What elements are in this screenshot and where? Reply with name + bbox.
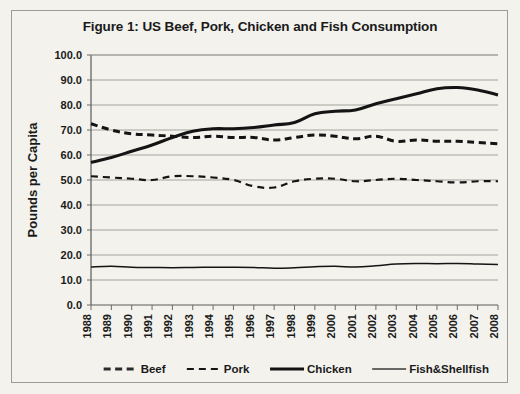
series-line-pork	[91, 176, 498, 188]
x-tick-label: 1996	[244, 314, 256, 338]
line-chart: 100.090.080.070.060.050.040.030.020.010.…	[0, 0, 520, 394]
data-series	[91, 87, 498, 268]
x-tick-label: 2002	[366, 314, 378, 338]
x-tick-label: 2007	[468, 314, 480, 338]
x-tick-label: 1991	[142, 314, 154, 338]
x-tick-label: 2001	[346, 314, 358, 338]
x-tick-label: 1992	[162, 314, 174, 338]
y-tick-label: 40.0	[61, 199, 82, 211]
y-axis-tick-labels: 100.090.080.070.060.050.040.030.020.010.…	[54, 49, 82, 311]
y-tick-label: 60.0	[61, 149, 82, 161]
series-line-chicken	[91, 87, 498, 162]
chart-legend: BeefPorkChickenFish&Shellfish	[104, 363, 489, 375]
x-tick-label: 2004	[407, 313, 419, 338]
x-tick-label: 2008	[488, 314, 500, 338]
legend-label-fish-shellfish: Fish&Shellfish	[409, 363, 489, 375]
legend-label-chicken: Chicken	[307, 363, 352, 375]
x-tick-label: 2003	[386, 314, 398, 338]
x-tick-label: 1993	[183, 314, 195, 338]
y-tick-label: 10.0	[61, 274, 82, 286]
y-tick-label: 0.0	[67, 299, 82, 311]
legend-label-pork: Pork	[224, 363, 250, 375]
x-tick-label: 1988	[81, 314, 93, 338]
x-axis-tick-labels: 1988198919901991199219931994199519961997…	[81, 313, 500, 338]
y-tick-label: 90.0	[61, 74, 82, 86]
y-tick-label: 50.0	[61, 174, 82, 186]
y-tick-label: 20.0	[61, 249, 82, 261]
figure-container: Figure 1: US Beef, Pork, Chicken and Fis…	[0, 0, 520, 394]
series-line-fish-shellfish	[91, 263, 498, 268]
y-tick-label: 80.0	[61, 99, 82, 111]
y-axis-title: Pounds per Capita	[25, 122, 40, 238]
series-line-beef	[91, 124, 498, 144]
y-tick-label: 30.0	[61, 224, 82, 236]
x-tick-label: 1994	[203, 313, 215, 338]
legend-label-beef: Beef	[141, 363, 166, 375]
y-tick-label: 100.0	[54, 49, 82, 61]
x-tick-label: 2000	[325, 314, 337, 338]
x-tick-label: 1995	[223, 314, 235, 338]
y-axis-label: Pounds per Capita	[25, 122, 40, 238]
x-tick-label: 1989	[101, 314, 113, 338]
x-tick-label: 1997	[264, 314, 276, 338]
x-tick-label: 2005	[427, 314, 439, 338]
x-tick-label: 1998	[285, 314, 297, 338]
y-tick-label: 70.0	[61, 124, 82, 136]
x-tick-label: 1990	[122, 314, 134, 338]
x-tick-label: 1999	[305, 314, 317, 338]
x-tick-label: 2006	[447, 314, 459, 338]
